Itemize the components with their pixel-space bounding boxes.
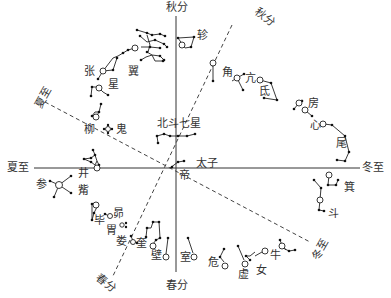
label-mansion-wei2: 危	[208, 257, 219, 268]
label-mansion-fang: 房	[308, 98, 319, 109]
constellation-mao	[104, 213, 113, 219]
star-map-svg	[0, 0, 391, 298]
label-mansion-bi: 壁	[151, 250, 162, 261]
label-mansion-jing: 井	[78, 168, 89, 179]
label-mansion-ji: 箕	[344, 182, 355, 193]
label-mansion-mao: 昴	[113, 208, 124, 219]
label-mansion-di: 氐	[259, 86, 270, 97]
label-mansion-wei3: 胃	[106, 225, 117, 236]
label-mansion-zhang: 张	[84, 66, 95, 77]
constellation-gui	[103, 124, 113, 134]
label-mansion-xu: 虚	[238, 269, 249, 280]
constellation-kang	[232, 73, 245, 92]
label-spring-equinox-bottom: 春分	[166, 280, 188, 291]
constellation-fang	[293, 100, 304, 111]
label-mansion-liu: 柳	[84, 124, 95, 135]
constellation-niu	[279, 239, 297, 253]
label-mansion-gui: 鬼	[116, 124, 127, 135]
label-mansion-zi: 觜	[78, 185, 89, 196]
label-mansion-nv: 女	[256, 265, 267, 276]
label-autumn-equinox-top: 秋分	[166, 2, 188, 13]
label-winter-solstice-right: 冬至	[362, 162, 384, 173]
constellation-dou	[313, 179, 326, 213]
label-mansion-shen: 参	[36, 179, 47, 190]
label-mansion-jiao: 角	[222, 67, 233, 78]
constellation-zhen	[177, 36, 196, 49]
constellation-ji	[326, 172, 339, 186]
constellation-kui	[145, 221, 162, 249]
label-mansion-xin: 心	[310, 120, 321, 131]
constellation-wei3	[120, 222, 127, 228]
label-mansion-shi: 室	[180, 252, 191, 263]
label-mansion-kui: 奎	[136, 238, 147, 249]
constellation-jiao	[210, 60, 216, 82]
constellation-nv	[245, 248, 268, 261]
label-mansion-niu: 牛	[270, 250, 281, 261]
constellation-shen	[49, 175, 73, 199]
pole-stars	[170, 160, 185, 169]
label-mansion-dou: 斗	[328, 208, 339, 219]
label-di-emperor: 帝	[179, 170, 190, 181]
label-mansion-kang: 亢	[245, 73, 256, 84]
label-mansion-zhen: 轸	[197, 30, 208, 41]
constellation-xing	[90, 85, 110, 97]
label-taizi: 太子	[196, 158, 218, 169]
label-mansion-wei: 尾	[336, 138, 347, 149]
label-mansion-lou: 娄	[116, 236, 127, 247]
label-mansion-xing: 星	[108, 79, 119, 90]
label-mansion-bi2: 毕	[94, 215, 105, 226]
constellation-bi	[163, 237, 169, 260]
label-summer-solstice-left: 夏至	[7, 162, 29, 173]
constellation-yi	[136, 29, 169, 63]
constellation-wei2	[219, 248, 228, 269]
constellation-liu	[91, 103, 103, 120]
label-mansion-yi: 翼	[128, 66, 139, 77]
label-big-dipper: 北斗七星	[157, 118, 201, 129]
